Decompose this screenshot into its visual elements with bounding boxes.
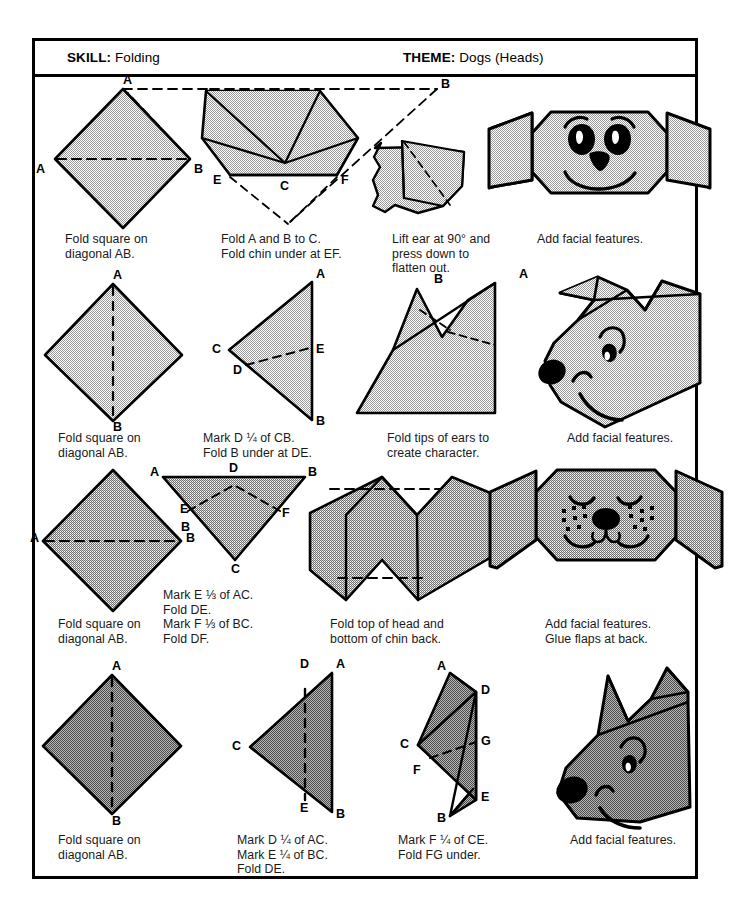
caption-r2-s4: Add facial features. [567,431,727,446]
point-label-r4s3-a: A [437,660,446,673]
skill-key: SKILL: [67,50,111,65]
caption-r2-s2: Mark D ¼ of CB. Fold B under at DE. [203,431,373,460]
caption-r4-s3: Mark F ¼ of CE. Fold FG under. [398,833,558,862]
origami-instruction-sheet: SKILL: Folding THEME: Dogs (Heads) [0,0,731,909]
caption-r4-s1: Fold square on diagonal AB. [58,833,208,862]
point-label-r1s2-c: C [280,180,289,193]
point-label-r4s3-g: G [481,735,491,748]
point-label-r4s3-c: C [400,738,409,751]
caption-r3-s4: Add facial features. Glue flaps at back. [545,617,720,646]
caption-r3-s3: Fold top of head and bottom of chin back… [330,617,505,646]
point-label-r1s2-b-top: B [441,78,450,91]
point-label-r4s2-c: C [232,740,241,753]
point-label-r4s3-b: B [437,812,446,825]
point-label-r4s3-d: D [481,684,490,697]
caption-r1-s3: Lift ear at 90° and press down to flatte… [392,232,542,276]
theme-value: Dogs (Heads) [459,50,543,65]
point-label-r4s1-b: B [112,815,121,828]
point-label-r3s2-b-low: B [181,521,190,534]
caption-r1-s1: Fold square on diagonal AB. [65,232,215,261]
point-label-r2s2-b: B [316,415,325,428]
point-label-r3s2-b-top: B [308,466,317,479]
caption-r1-s4: Add facial features. [537,232,707,247]
point-label-r1s1-a-top: A [123,74,132,87]
point-label-r1s1-b-right: B [194,163,203,176]
point-label-r1s2-e: E [213,174,221,187]
caption-r1-s2: Fold A and B to C. Fold chin under at EF… [221,232,391,261]
point-label-r4s2-e: E [300,802,308,815]
point-label-r1s1-a-left: A [36,163,45,176]
point-label-r4s2-a: A [336,658,345,671]
point-label-r3s2-c: C [231,563,240,576]
caption-r2-s1: Fold square on diagonal AB. [58,431,208,460]
theme-key: THEME: [403,50,455,65]
point-label-r2s2-c: C [212,343,221,356]
point-label-r3s2-a: A [150,466,159,479]
skill-label: SKILL: Folding [67,50,160,65]
point-label-r4s1-a: A [112,660,121,673]
point-label-r2s1-a: A [113,269,122,282]
point-label-r4s3-e: E [481,791,489,804]
point-label-r4s3-f: F [413,764,421,777]
caption-r2-s3: Fold tips of ears to create character. [387,431,552,460]
point-label-r4s2-d: D [300,658,309,671]
point-label-r1s2-f: F [341,174,349,187]
point-label-r3s2-f: F [282,507,290,520]
point-label-r2s2-e: E [316,343,324,356]
theme-label: THEME: Dogs (Heads) [403,50,544,65]
point-label-r3s1-a: A [30,532,39,545]
caption-r4-s4: Add facial features. [570,833,730,848]
caption-r3-s2: Mark E ⅓ of AC. Fold DE. Mark F ⅓ of BC.… [163,588,323,646]
point-label-r4s2-b: B [336,808,345,821]
point-label-r2s2-d: D [233,364,242,377]
header-bar: SKILL: Folding THEME: Dogs (Heads) [35,41,695,77]
point-label-r2s2-a: A [316,268,325,281]
point-label-r3s2-d: D [229,462,238,475]
skill-value: Folding [115,50,160,65]
caption-r4-s2: Mark D ¼ of AC. Mark E ¼ of BC. Fold DE. [237,833,407,877]
point-label-r3s2-e: E [180,503,188,516]
